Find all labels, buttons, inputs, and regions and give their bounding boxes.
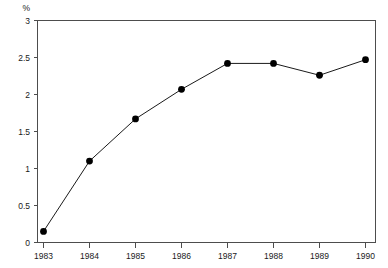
data-point xyxy=(362,56,369,63)
y-axis-tick-labels: 0 0.5 1 1.5 2 2.5 3 xyxy=(18,16,30,248)
x-axis-ticks xyxy=(44,243,366,248)
line-chart: 0 0.5 1 1.5 2 2.5 3 % 1983 1984 1985 198… xyxy=(0,0,388,268)
x-tick-label: 1984 xyxy=(80,251,99,261)
y-tick-label: 3 xyxy=(25,16,30,26)
y-tick-label: 2.5 xyxy=(18,53,30,63)
data-point xyxy=(178,86,185,93)
y-tick-label: 1.5 xyxy=(18,127,30,137)
x-axis-tick-labels: 1983 1984 1985 1986 1987 1988 1989 1990 xyxy=(34,251,375,261)
x-tick-label: 1987 xyxy=(218,251,237,261)
data-point xyxy=(316,72,323,79)
chart-canvas: 0 0.5 1 1.5 2 2.5 3 % 1983 1984 1985 198… xyxy=(0,0,388,268)
plot-frame xyxy=(38,21,376,243)
x-tick-label: 1990 xyxy=(356,251,375,261)
y-axis-ticks xyxy=(34,21,38,243)
y-axis-title: % xyxy=(22,3,30,13)
y-tick-label: 1 xyxy=(25,164,30,174)
x-tick-label: 1986 xyxy=(172,251,191,261)
x-tick-label: 1985 xyxy=(126,251,145,261)
y-tick-label: 0 xyxy=(25,238,30,248)
data-point xyxy=(224,60,231,67)
x-tick-label: 1983 xyxy=(34,251,53,261)
plot-frame-path xyxy=(38,21,376,243)
y-tick-label: 2 xyxy=(25,90,30,100)
data-point xyxy=(270,60,277,67)
x-tick-label: 1989 xyxy=(310,251,329,261)
series-markers xyxy=(40,56,369,234)
data-point xyxy=(132,116,139,123)
data-series xyxy=(40,56,369,234)
y-tick-label: 0.5 xyxy=(18,201,30,211)
data-point xyxy=(40,228,47,235)
series-line xyxy=(44,60,366,232)
data-point xyxy=(86,158,93,165)
x-tick-label: 1988 xyxy=(264,251,283,261)
